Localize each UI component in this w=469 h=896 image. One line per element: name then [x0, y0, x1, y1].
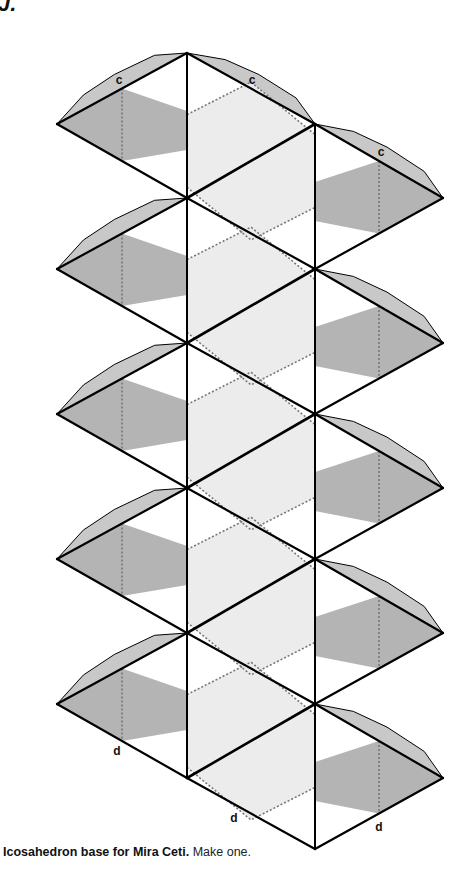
caption-text: Make one.	[189, 845, 251, 859]
edge-label-c: c	[116, 73, 123, 87]
edge-label-d: d	[230, 811, 237, 825]
figure-caption: Icosahedron base for Mira Ceti. Make one…	[3, 845, 251, 859]
caption-title: Icosahedron base for Mira Ceti.	[3, 845, 189, 859]
icosahedron-net-diagram: cccddd	[0, 0, 469, 896]
edge-label-d: d	[113, 744, 120, 758]
edge-label-c: c	[249, 73, 256, 87]
edge-label-d: d	[375, 820, 382, 834]
edge-label-c: c	[378, 145, 385, 159]
